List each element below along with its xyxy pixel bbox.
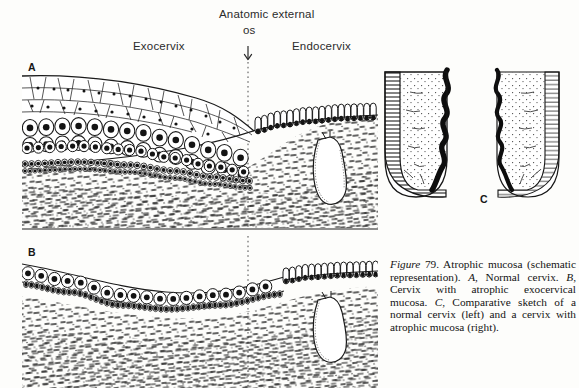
panel-c-artwork [385, 70, 559, 197]
panel-c-right-atrophic-cervix [496, 70, 559, 197]
panel-b-artwork [22, 261, 379, 388]
panel-a-artwork [22, 76, 378, 228]
figure-caption: Figure 79. Atrophic mucosa (schematic re… [390, 258, 576, 334]
endocervical-columnar-epithelium-b [283, 261, 379, 284]
panel-c-left-normal-cervix [385, 70, 448, 197]
caption-segment-2: , Normal cervix. [475, 271, 566, 283]
caption-figure-word: Figure [390, 258, 420, 270]
figure-79-atrophic-mucosa: Anatomic external os Exocervix Endocervi… [0, 0, 579, 388]
